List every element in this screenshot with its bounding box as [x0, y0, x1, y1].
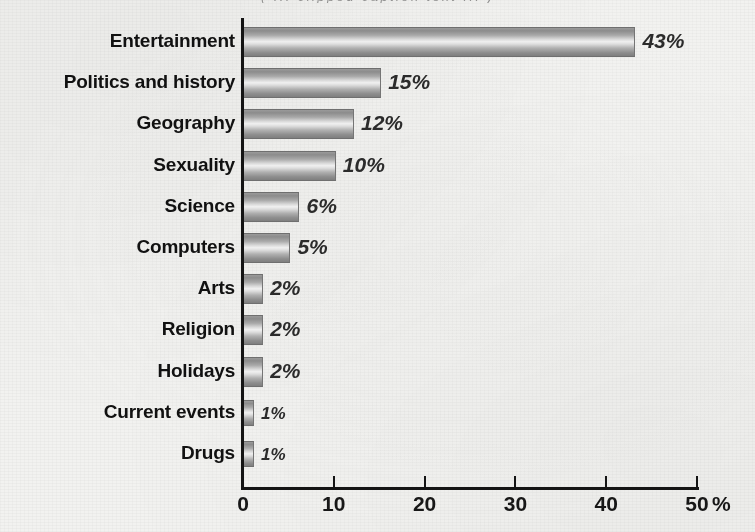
x-axis-unit-label: % [712, 492, 731, 516]
bar-geography [244, 109, 354, 139]
category-label-drugs: Drugs [181, 442, 235, 464]
bar-entertainment [244, 27, 635, 57]
value-label-computers: 5% [297, 235, 327, 259]
x-axis-tick-10 [333, 476, 335, 487]
value-label-politics-and-history: 15% [388, 70, 430, 94]
bar-science [244, 192, 299, 222]
category-label-science: Science [165, 195, 235, 217]
bar-holidays [244, 357, 263, 387]
bar-arts [244, 274, 263, 304]
x-axis-tick-label-20: 20 [413, 492, 436, 516]
bar-chart-plot-area: 01020304050 % Entertainment43%Politics a… [0, 0, 755, 532]
value-label-geography: 12% [361, 111, 403, 135]
chart-page: ( ... clipped caption text ... ) 0102030… [0, 0, 755, 532]
category-label-politics-and-history: Politics and history [64, 71, 235, 93]
x-axis-tick-label-0: 0 [237, 492, 249, 516]
category-label-sexuality: Sexuality [153, 154, 235, 176]
value-label-entertainment: 43% [642, 29, 684, 53]
value-label-holidays: 2% [270, 359, 300, 383]
x-axis-tick-30 [514, 476, 516, 487]
value-label-drugs: 1% [261, 445, 286, 465]
value-label-arts: 2% [270, 276, 300, 300]
bar-computers [244, 233, 290, 263]
value-label-science: 6% [306, 194, 336, 218]
value-label-religion: 2% [270, 317, 300, 341]
bar-drugs [244, 441, 254, 467]
bar-politics-and-history [244, 68, 381, 98]
x-axis-tick-50 [696, 476, 698, 487]
category-label-current-events: Current events [104, 401, 235, 423]
x-axis-tick-label-10: 10 [322, 492, 345, 516]
bar-current-events [244, 400, 254, 426]
bar-sexuality [244, 151, 336, 181]
x-axis-tick-label-50: 50 [685, 492, 708, 516]
x-axis-tick-40 [605, 476, 607, 487]
category-label-arts: Arts [198, 277, 235, 299]
bar-religion [244, 315, 263, 345]
category-label-computers: Computers [137, 236, 236, 258]
category-label-entertainment: Entertainment [110, 30, 235, 52]
x-axis-tick-label-40: 40 [595, 492, 618, 516]
category-label-religion: Religion [162, 318, 235, 340]
category-label-geography: Geography [137, 112, 236, 134]
category-label-holidays: Holidays [157, 360, 235, 382]
value-label-current-events: 1% [261, 404, 286, 424]
x-axis-line [241, 487, 699, 490]
x-axis-tick-20 [424, 476, 426, 487]
x-axis-tick-label-30: 30 [504, 492, 527, 516]
value-label-sexuality: 10% [343, 153, 385, 177]
